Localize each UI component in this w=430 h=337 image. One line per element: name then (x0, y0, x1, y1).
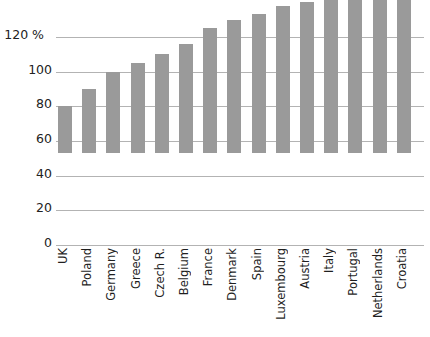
bar (373, 0, 387, 153)
y-tick-label-20: 20 (36, 202, 52, 215)
bar (155, 54, 169, 153)
x-tick-label: Denmark (227, 248, 241, 301)
bar (397, 0, 411, 153)
y-axis: 120 % 100 80 60 40 20 0 (0, 0, 52, 337)
bar (324, 0, 338, 153)
bar-chart: 120 % 100 80 60 40 20 0 UKPolandGermanyG… (0, 0, 430, 337)
y-tick-label-40: 40 (36, 168, 52, 181)
x-tick-label: Luxembourg (276, 248, 290, 320)
bar (82, 89, 96, 153)
gridline-0 (56, 245, 424, 246)
x-tick-label: Germany (106, 248, 120, 301)
y-tick-label-80: 80 (36, 98, 52, 111)
x-tick-label: Greece (131, 248, 145, 289)
x-tick-label: Belgium (179, 248, 193, 295)
bars-group (56, 0, 430, 245)
y-tick-label-100: 100 (28, 64, 52, 77)
x-tick-label: Poland (82, 248, 96, 286)
bar (348, 0, 362, 153)
x-tick-label: Czech R. (155, 248, 169, 298)
y-tick-label-0: 0 (44, 237, 52, 250)
x-tick-label: Portugal (348, 248, 362, 296)
bar (131, 63, 145, 153)
bar (252, 14, 266, 153)
x-tick-label: Netherlands (373, 248, 387, 318)
x-tick-label: Italy (324, 248, 338, 273)
bar (300, 2, 314, 153)
x-tick-label: UK (58, 248, 72, 264)
bar (276, 6, 290, 153)
y-tick-label-120: 120 % (4, 29, 44, 42)
x-tick-label: Austria (300, 248, 314, 289)
bar (179, 44, 193, 153)
x-tick-label: France (203, 248, 217, 286)
bar (227, 20, 241, 153)
x-axis: UKPolandGermanyGreeceCzech R.BelgiumFran… (56, 248, 430, 337)
x-tick-label: Croatia (397, 248, 411, 289)
bar (106, 72, 120, 153)
y-tick-label-60: 60 (36, 133, 52, 146)
bar (203, 28, 217, 153)
x-tick-label: Spain (252, 248, 266, 280)
bar (58, 106, 72, 153)
